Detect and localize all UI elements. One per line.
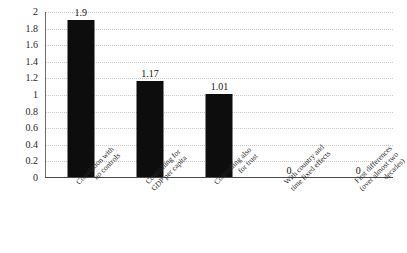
bar[interactable]: [67, 20, 94, 178]
y-axis-tick-label: 0.4: [26, 140, 39, 150]
x-axis-category-label: With country andtime fixed effects: [253, 178, 322, 253]
x-axis-category-label: Controlling alsofor trust: [184, 178, 253, 253]
y-axis-tick-label: 0.2: [26, 156, 39, 166]
bar-value-label: 1.9: [74, 7, 87, 18]
y-axis-tick-label: 1: [33, 90, 38, 100]
y-axis-tick-label: 1.8: [26, 24, 39, 34]
plot-area: 1.91.171.0100: [45, 12, 393, 178]
x-axis-category-label: Controlling forGDP per capita: [114, 178, 183, 253]
y-axis-tick-label: 1.6: [26, 40, 39, 50]
y-axis-tick-label: 1.2: [26, 73, 39, 83]
bar-value-label: 1.17: [141, 68, 159, 79]
bar-value-label: 1.01: [211, 81, 229, 92]
y-axis: 00.20.40.60.811.21.41.61.82: [0, 12, 44, 178]
y-axis-tick-label: 1.4: [26, 57, 39, 67]
bar-chart: 00.20.40.60.811.21.41.61.82 1.91.171.010…: [0, 0, 407, 253]
y-axis-tick-label: 2: [33, 7, 38, 17]
x-axis-labels: Correlation withno controlsControlling f…: [45, 178, 392, 253]
y-axis-tick-label: 0.6: [26, 123, 39, 133]
y-axis-tick-label: 0: [33, 173, 38, 183]
x-axis-category-label: Correlation withno controls: [45, 178, 114, 253]
x-axis-category-label: First differences(over almost twodecades…: [323, 178, 392, 253]
y-axis-tick-label: 0.8: [26, 107, 39, 117]
